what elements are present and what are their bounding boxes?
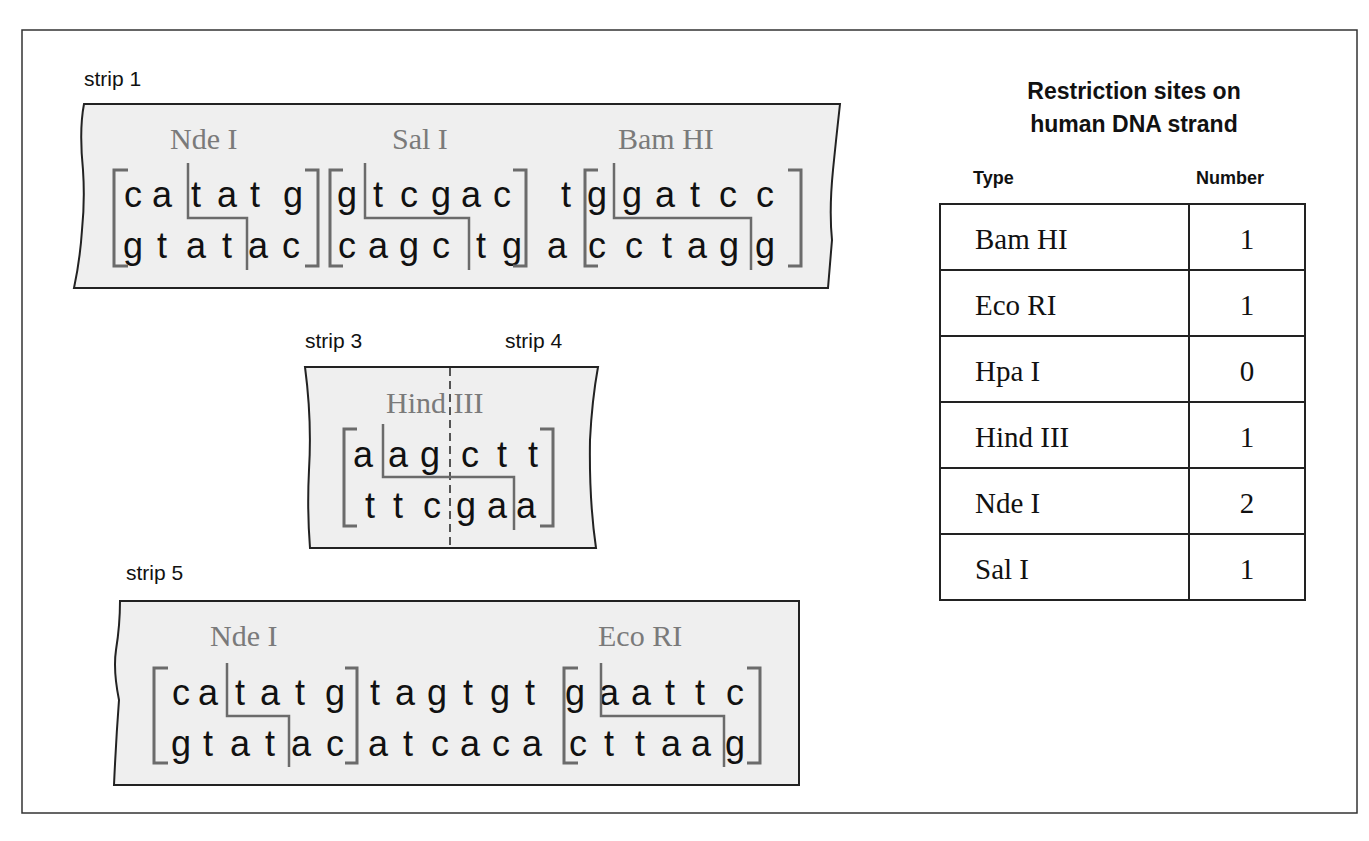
base-letter: g: [325, 672, 345, 713]
base-letter: c: [493, 174, 511, 215]
base-letter: a: [661, 723, 682, 764]
base-letter: g: [427, 672, 447, 713]
base-letter: g: [490, 672, 510, 713]
enzyme-label: Bam HI: [618, 122, 714, 155]
base-letter: t: [222, 225, 232, 266]
enzyme-label: Nde I: [170, 122, 237, 155]
base-letter: g: [719, 225, 739, 266]
base-letter: g: [399, 225, 419, 266]
base-letter: c: [756, 174, 774, 215]
base-letter: a: [260, 672, 281, 713]
base-letter: c: [423, 485, 441, 526]
base-letter: c: [625, 225, 643, 266]
base-letter: t: [191, 174, 201, 215]
strip-5-label: strip 5: [126, 561, 183, 584]
restriction-diagram: strip 1 Nde ISal IBam HI catatggtcgactgg…: [0, 0, 1369, 841]
base-letter: t: [365, 485, 375, 526]
base-letter: c: [719, 174, 737, 215]
base-letter: t: [295, 672, 305, 713]
cell-type: Hind III: [975, 421, 1069, 453]
base-letter: g: [755, 225, 775, 266]
cell-type: Eco RI: [975, 289, 1056, 321]
base-letter: a: [186, 225, 207, 266]
base-letter: g: [171, 723, 191, 764]
cell-number: 1: [1240, 421, 1255, 453]
base-letter: t: [476, 225, 486, 266]
base-letter: c: [431, 723, 449, 764]
base-letter: a: [368, 723, 389, 764]
base-letter: t: [265, 723, 275, 764]
base-letter: g: [123, 225, 143, 266]
cell-type: Bam HI: [975, 223, 1068, 255]
base-letter: t: [635, 723, 645, 764]
strip-1-label: strip 1: [84, 67, 141, 90]
base-letter: t: [250, 174, 260, 215]
base-letter: c: [172, 672, 190, 713]
base-letter: a: [691, 723, 712, 764]
column-header-type: Type: [973, 168, 1014, 188]
base-letter: c: [338, 225, 356, 266]
base-letter: c: [492, 723, 510, 764]
base-letter: c: [569, 723, 587, 764]
strip-4-label: strip 4: [505, 329, 563, 352]
base-letter: g: [456, 485, 476, 526]
base-letter: t: [561, 174, 571, 215]
base-letter: a: [516, 485, 537, 526]
base-letter: c: [124, 174, 142, 215]
base-letter: a: [461, 174, 482, 215]
table-title-line-1: Restriction sites on: [1027, 78, 1240, 104]
cell-number: 0: [1240, 355, 1255, 387]
base-letter: a: [230, 723, 251, 764]
base-letter: c: [726, 672, 744, 713]
base-letter: t: [497, 434, 507, 475]
base-letter: a: [547, 225, 568, 266]
enzyme-label: Hind III: [386, 386, 483, 419]
base-letter: t: [393, 485, 403, 526]
base-letter: a: [353, 434, 374, 475]
strip-3-4-enzyme-labels: Hind III: [386, 386, 483, 419]
base-letter: a: [198, 672, 219, 713]
base-letter: t: [662, 225, 672, 266]
strip-3-label: strip 3: [305, 329, 362, 352]
cell-type: Nde I: [975, 487, 1040, 519]
cell-number: 2: [1240, 487, 1255, 519]
base-letter: t: [528, 434, 538, 475]
base-letter: a: [248, 225, 269, 266]
base-letter: t: [235, 672, 245, 713]
base-letter: t: [690, 174, 700, 215]
base-letter: t: [403, 723, 413, 764]
base-letter: g: [502, 225, 522, 266]
base-letter: a: [655, 174, 676, 215]
base-letter: g: [725, 723, 745, 764]
base-letter: c: [282, 225, 300, 266]
enzyme-label: Sal I: [392, 122, 448, 155]
base-letter: c: [588, 225, 606, 266]
base-letter: a: [152, 174, 173, 215]
table-title-line-2: human DNA strand: [1030, 111, 1237, 137]
cell-type: Hpa I: [975, 355, 1040, 387]
enzyme-label: Nde I: [210, 619, 277, 652]
base-letter: g: [587, 174, 607, 215]
base-letter: a: [395, 672, 416, 713]
base-letter: g: [337, 174, 357, 215]
base-letter: c: [326, 723, 344, 764]
base-letter: c: [461, 434, 479, 475]
base-letter: g: [431, 174, 451, 215]
base-letter: a: [460, 723, 481, 764]
column-header-number: Number: [1196, 168, 1264, 188]
base-letter: t: [604, 723, 614, 764]
base-letter: a: [487, 485, 508, 526]
base-letter: a: [687, 225, 708, 266]
base-letter: g: [420, 434, 440, 475]
base-letter: g: [622, 174, 642, 215]
cell-type: Sal I: [975, 553, 1029, 585]
cell-number: 1: [1240, 553, 1255, 585]
base-letter: a: [388, 434, 409, 475]
base-letter: t: [157, 225, 167, 266]
base-letter: g: [283, 174, 303, 215]
base-letter: t: [665, 672, 675, 713]
base-letter: t: [463, 672, 473, 713]
base-letter: t: [370, 672, 380, 713]
cell-number: 1: [1240, 223, 1255, 255]
base-letter: a: [217, 174, 238, 215]
